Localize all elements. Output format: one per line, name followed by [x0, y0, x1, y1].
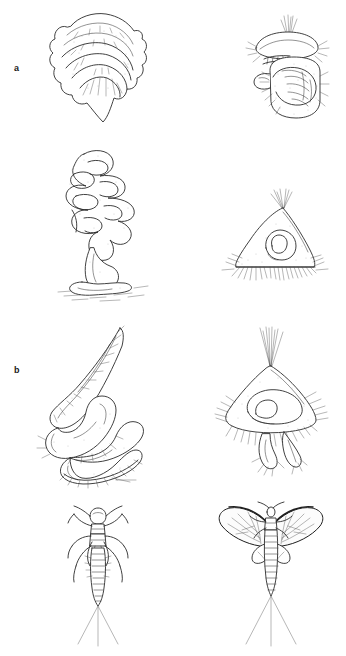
bivalve-shell-illustration: [38, 8, 156, 128]
row-label-a: a: [14, 64, 19, 73]
case-dome: [236, 208, 315, 267]
apical-tuft: [271, 189, 292, 208]
plate-row-b: b: [0, 140, 346, 312]
larva-cap: [256, 32, 318, 59]
adult-abdomen: [264, 530, 278, 596]
case-posterior-lobes: [259, 432, 301, 469]
illustration-plate: a: [0, 0, 346, 656]
capped-larva-illustration: [232, 14, 334, 126]
plate-row-c: c: [0, 312, 346, 490]
apical-bristle-tuft: [260, 327, 283, 366]
mayfly-nymph-illustration: [52, 502, 144, 646]
nymph-head: [90, 508, 106, 524]
adult-caudal-filaments: [246, 596, 296, 646]
branching-colony-illustration: [28, 144, 164, 302]
domed-case-illustration: [216, 188, 326, 292]
conical-case-illustration: [208, 326, 332, 476]
coiled-worm-illustration: [24, 322, 168, 488]
nymph-thorax: [90, 524, 106, 546]
larva-body: [270, 57, 320, 118]
case-basal-setae: [232, 267, 316, 280]
colony-branches: [66, 151, 134, 261]
winged-adult-illustration: [208, 500, 334, 646]
nymph-abdomen: [91, 548, 106, 606]
shell-outline: [50, 14, 147, 122]
plate-row-d: d: [0, 490, 346, 656]
plate-row-a: a: [0, 0, 346, 140]
colony-base-holdfast: [70, 282, 132, 295]
case-cone: [226, 366, 316, 433]
larva-head-lobe: [254, 73, 270, 89]
nymph-caudal-filaments: [78, 606, 118, 646]
